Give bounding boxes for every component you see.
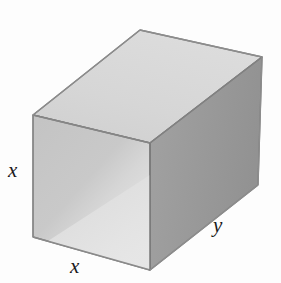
dimension-label-depth-x: x [70, 256, 79, 277]
rectangular-box-illustration [0, 0, 281, 283]
dimension-label-length-y: y [213, 215, 222, 236]
dimension-label-height-x: x [8, 160, 17, 181]
figure-container: x x y [0, 0, 281, 283]
